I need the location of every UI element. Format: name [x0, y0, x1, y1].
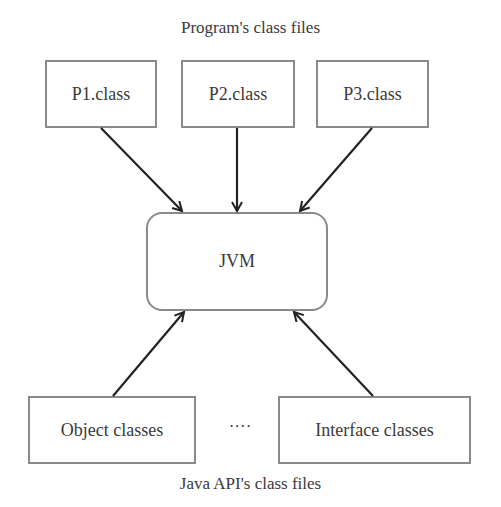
arrow-interface-to-jvm: [294, 312, 373, 396]
arrow-p1-to-jvm: [101, 128, 182, 211]
arrows: [0, 0, 501, 507]
arrow-p3-to-jvm: [300, 128, 372, 211]
arrow-object-to-jvm: [113, 312, 184, 396]
